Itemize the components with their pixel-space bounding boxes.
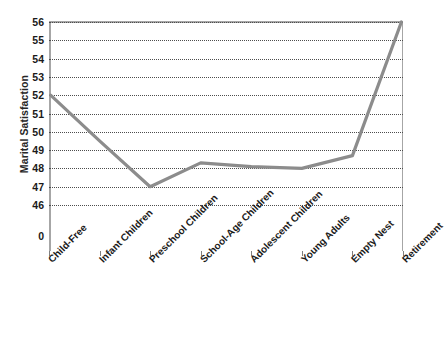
x-axis-tick-labels: Child-FreeInfant ChildrenPreschool Child… (0, 251, 420, 348)
x-axis-tick-label: Retirement (400, 220, 445, 265)
y-axis-tick-label: 0 (18, 230, 44, 242)
y-axis-tick-label: 54 (18, 53, 44, 65)
y-axis-tick-label: 55 (18, 34, 44, 46)
y-axis-tick-label: 46 (18, 199, 44, 211)
y-axis-tick-label: 51 (18, 108, 44, 120)
series-line (51, 22, 402, 187)
y-axis-tick-label: 48 (18, 162, 44, 174)
y-axis-tick-label: 47 (18, 181, 44, 193)
y-axis-tick-label: 50 (18, 126, 44, 138)
y-axis-tick-label: 52 (18, 89, 44, 101)
y-axis-tick-labels: 56555453525150494847460 (16, 0, 44, 260)
y-axis-tick-label: 49 (18, 144, 44, 156)
y-axis-tick-label: 53 (18, 71, 44, 83)
y-axis-tick-label: 56 (18, 16, 44, 28)
